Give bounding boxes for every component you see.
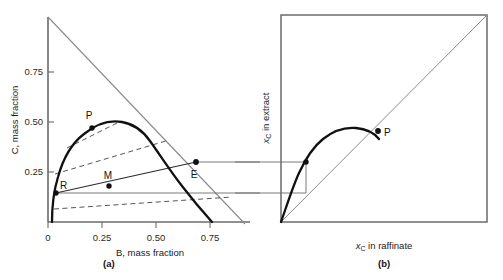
point-label-P: P: [86, 110, 93, 121]
panel-b-svg: P xC in raffinate xC in extract: [255, 0, 503, 252]
point-M[interactable]: [106, 183, 111, 188]
x-tick-label-075: 0.75: [201, 232, 220, 243]
point-label-M: M: [104, 170, 112, 181]
point-R[interactable]: [53, 190, 58, 195]
y-axis-title: C, mass fraction: [9, 86, 20, 155]
x-tick-label-050: 0.50: [147, 232, 166, 243]
panel-a-ternary-diagram: 0 0.25 0.50 0.75 0.25 0.50 0.75 B, mass …: [0, 0, 260, 280]
tie-line-dashed-lower: [54, 197, 232, 209]
diagonal-line: [281, 15, 487, 222]
figure-container: 0 0.25 0.50 0.75 0.25 0.50 0.75 B, mass …: [0, 0, 503, 280]
x-axis-title: B, mass fraction: [116, 247, 184, 258]
binodal-curve: [52, 122, 212, 223]
point-P-b[interactable]: [375, 128, 381, 134]
caption-b: (b): [378, 258, 390, 269]
y-axis-title-b-tail: in extract: [260, 92, 271, 134]
panel-a-svg: 0 0.25 0.50 0.75 0.25 0.50 0.75 B, mass …: [0, 0, 260, 252]
y-tick-label-050: 0.50: [25, 116, 44, 127]
point-E[interactable]: [193, 159, 199, 165]
x-axis-title-b-tail: in raffinate: [365, 240, 412, 251]
point-label-E: E: [191, 169, 198, 180]
panel-b-distribution-diagram: P xC in raffinate xC in extract: [255, 0, 503, 280]
point-label-P-b: P: [384, 127, 391, 138]
x-tick-label-025: 0.25: [93, 232, 112, 243]
y-axis-title-b: xC in extract: [260, 92, 272, 144]
point-tieline-b[interactable]: [303, 159, 308, 164]
y-tick-label-025: 0.25: [25, 166, 44, 177]
y-axis-ticks: [48, 72, 54, 172]
x-axis-ticks: [48, 222, 210, 228]
x-tick-label-0: 0: [45, 232, 50, 243]
point-P[interactable]: [89, 125, 94, 130]
caption-a: (a): [103, 258, 115, 269]
x-axis-title-b: xC in raffinate: [355, 240, 413, 252]
y-tick-label-075: 0.75: [25, 66, 44, 77]
point-label-R: R: [60, 180, 67, 191]
